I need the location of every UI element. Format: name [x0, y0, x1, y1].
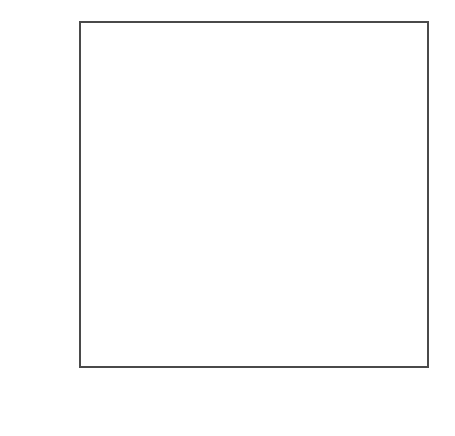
plot-frame [80, 22, 428, 367]
co2-concentration-chart [0, 0, 455, 436]
chart-canvas [0, 0, 455, 436]
